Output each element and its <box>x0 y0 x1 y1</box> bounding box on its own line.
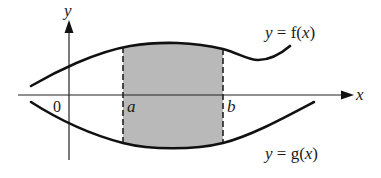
origin-label: 0 <box>53 98 61 115</box>
area-between-curves-diagram: y x 0 a b y = f(x) y = g(x) <box>0 0 381 178</box>
diagram-canvas: y x 0 a b y = f(x) y = g(x) <box>0 0 381 178</box>
x-axis-arrow-icon <box>341 91 354 100</box>
y-axis-label: y <box>62 1 72 20</box>
y-axis-arrow-icon <box>65 20 74 33</box>
bound-label-a: a <box>127 97 136 116</box>
curve-f-label: y = f(x) <box>263 23 315 42</box>
curve-g-label: y = g(x) <box>263 144 318 163</box>
bound-label-b: b <box>227 97 236 116</box>
x-axis-label: x <box>355 85 364 104</box>
